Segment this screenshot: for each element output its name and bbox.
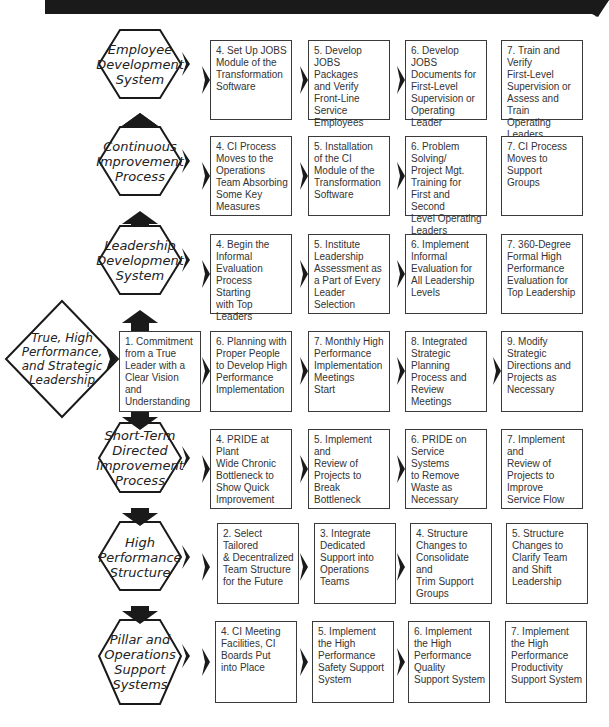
step-text: 5. Installation of the CI Module of the … — [314, 141, 386, 201]
step-text: 4. CI Meeting Facilities, CI Boards Put … — [221, 626, 293, 674]
step-box: 6. Implement Informal Evaluation for All… — [405, 234, 487, 314]
step-box: 7. Train and Verify First-Level Supervis… — [501, 40, 583, 120]
step-box: 6. Implement the High Performance Qualit… — [408, 621, 490, 703]
step-box: 7. 360-Degree Formal High Performance Ev… — [501, 234, 583, 314]
step-box: 8. Integrated Strategic Planning Process… — [405, 331, 487, 412]
step-box: 6. Problem Solving/ Project Mgt. Trainin… — [405, 136, 487, 216]
step-text: 4. CI Process Moves to the Operations Te… — [216, 141, 288, 213]
step-text: 6. Problem Solving/ Project Mgt. Trainin… — [411, 141, 483, 237]
step-box: 4. Structure Changes to Consolidate and … — [410, 523, 492, 604]
step-box: 5. Institute Leadership Assessment as a … — [308, 234, 390, 314]
step-box: 7. CI Process Moves to Support Groups — [501, 136, 583, 216]
pillar-label-employee-development: Employee Development System — [100, 40, 180, 88]
step-text: 6. Develop JOBS Documents for First-Leve… — [411, 45, 483, 129]
step-box: 4. CI Meeting Facilities, CI Boards Put … — [215, 621, 297, 703]
step-box: 3. Integrate Dedicated Support into Oper… — [314, 523, 396, 604]
pillar-label-high-performance-structure: High Performance Structure — [100, 533, 180, 581]
step-box: 7. Implement and Review of Projects to I… — [501, 429, 583, 509]
step-text: 7. Implement the High Performance Produc… — [511, 626, 583, 686]
step-text: 4. PRIDE at Plant Wide Chronic Bottlenec… — [216, 434, 288, 506]
pillar-label-short-term-improvement: Short-Term Directed Improvement Process — [100, 428, 180, 488]
step-box: 5. Implement the High Performance Safety… — [312, 621, 394, 703]
step-text: 4. Structure Changes to Consolidate and … — [416, 528, 488, 600]
step-box: 4. Set Up JOBS Module of the Transformat… — [210, 40, 292, 120]
step-text: 6. PRIDE on Service Systems to Remove Wa… — [411, 434, 483, 506]
step-box: 7. Implement the High Performance Produc… — [505, 621, 587, 703]
top-timeline-arrow — [45, 0, 609, 17]
step-box: 4. PRIDE at Plant Wide Chronic Bottlenec… — [210, 429, 292, 509]
step-box: 9. Modify Strategic Directions and Proje… — [501, 331, 583, 412]
step-text: 7. Implement and Review of Projects to I… — [507, 434, 579, 506]
pillar-label-leadership-development: Leadership Development System — [100, 236, 180, 284]
step-text: 5. Institute Leadership Assessment as a … — [314, 239, 386, 311]
step-text: 5. Structure Changes to Clarify Team and… — [512, 528, 584, 588]
step-box: 5. Implement and Review of Projects to B… — [308, 429, 390, 509]
step-box: 4. CI Process Moves to the Operations Te… — [210, 136, 292, 216]
step-text: 7. Train and Verify First-Level Supervis… — [507, 45, 579, 141]
step-text: 5. Implement and Review of Projects to B… — [314, 434, 386, 506]
step-text: 1. Commitment from a True Leader with a … — [125, 336, 197, 408]
step-text: 8. Integrated Strategic Planning Process… — [411, 336, 483, 408]
step-box: 5. Installation of the CI Module of the … — [308, 136, 390, 216]
step-box: 5. Develop JOBS Packages and Verify Fron… — [308, 40, 390, 120]
step-box: 6. Planning with Proper People to Develo… — [210, 331, 292, 412]
step-box: 6. PRIDE on Service Systems to Remove Wa… — [405, 429, 487, 509]
step-text: 5. Develop JOBS Packages and Verify Fron… — [314, 45, 386, 129]
step-text: 7. CI Process Moves to Support Groups — [507, 141, 579, 189]
step-text: 4. Set Up JOBS Module of the Transformat… — [216, 45, 288, 93]
start-node-label: True, High Performance, and Strategic Le… — [10, 326, 114, 392]
step-box: 7. Monthly High Performance Implementati… — [308, 331, 390, 412]
step-box: 6. Develop JOBS Documents for First-Leve… — [405, 40, 487, 120]
step-text: 6. Implement the High Performance Qualit… — [414, 626, 486, 686]
step-text: 5. Implement the High Performance Safety… — [318, 626, 390, 686]
step-text: 9. Modify Strategic Directions and Proje… — [507, 336, 579, 396]
step-text: 7. Monthly High Performance Implementati… — [314, 336, 386, 396]
step-box: 2. Select Tailored & Decentralized Team … — [217, 523, 299, 604]
step-box-commitment: 1. Commitment from a True Leader with a … — [119, 331, 201, 412]
step-text: 7. 360-Degree Formal High Performance Ev… — [507, 239, 579, 299]
step-text: 6. Implement Informal Evaluation for All… — [411, 239, 483, 299]
step-text: 6. Planning with Proper People to Develo… — [216, 336, 288, 396]
step-text: 3. Integrate Dedicated Support into Oper… — [320, 528, 392, 588]
step-text: 2. Select Tailored & Decentralized Team … — [223, 528, 295, 588]
step-box: 5. Structure Changes to Clarify Team and… — [506, 523, 588, 604]
step-text: 4. Begin the Informal Evaluation Process… — [216, 239, 288, 323]
step-box: 4. Begin the Informal Evaluation Process… — [210, 234, 292, 314]
pillar-label-continuous-improvement: Continuous Improvement Process — [100, 137, 180, 185]
pillar-label-pillar-operations: Pillar and Operations Support Systems — [100, 630, 180, 694]
